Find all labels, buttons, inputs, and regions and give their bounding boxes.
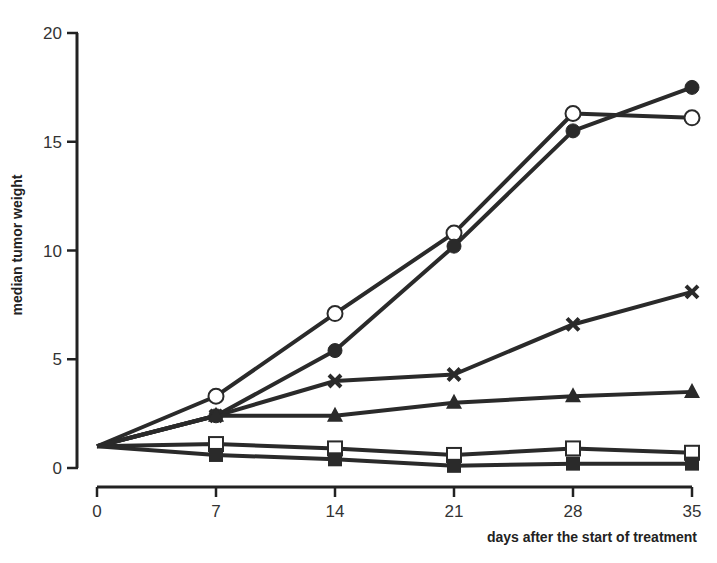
- y-tick-label: 20: [43, 24, 62, 43]
- x-tick-label: 7: [211, 502, 220, 521]
- filled-circle-marker: [447, 239, 461, 253]
- y-tick-label: 15: [43, 133, 62, 152]
- series-line: [97, 392, 692, 446]
- filled-circle-marker: [566, 124, 580, 138]
- series-line: [97, 87, 692, 446]
- series-open-square: [97, 437, 699, 462]
- x-tick-label: 21: [445, 502, 464, 521]
- series-filled-triangle: [97, 383, 700, 446]
- x-tick-label: 14: [326, 502, 345, 521]
- open-circle-marker: [685, 110, 700, 125]
- filled-square-marker: [328, 452, 342, 466]
- y-tick-label: 5: [53, 350, 62, 369]
- series-filled-circle: [97, 80, 699, 446]
- open-circle-marker: [209, 389, 224, 404]
- y-axis-title: median tumor weight: [9, 174, 25, 315]
- open-circle-marker: [566, 106, 581, 121]
- x-axis: 0714212835: [92, 487, 701, 521]
- filled-square-marker: [566, 457, 580, 471]
- open-circle-marker: [328, 306, 343, 321]
- open-square-marker: [566, 441, 580, 455]
- y-tick-label: 10: [43, 242, 62, 261]
- x-tick-label: 0: [92, 502, 101, 521]
- filled-square-marker: [685, 457, 699, 471]
- x-tick-label: 28: [564, 502, 583, 521]
- filled-circle-marker: [328, 344, 342, 358]
- filled-square-marker: [209, 448, 223, 462]
- y-axis: 05101520: [43, 24, 78, 478]
- filled-square-marker: [447, 459, 461, 473]
- x-tick-label: 35: [683, 502, 702, 521]
- filled-circle-marker: [685, 80, 699, 94]
- x-axis-title: days after the start of treatment: [487, 529, 697, 545]
- y-tick-label: 0: [53, 459, 62, 478]
- data-series: [97, 80, 700, 472]
- tumor-weight-chart: 05101520 0714212835 median tumor weight …: [0, 0, 717, 563]
